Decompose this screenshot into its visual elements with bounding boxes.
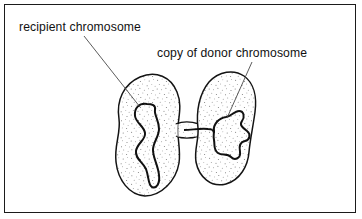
label-copy-of-donor-chromosome: copy of donor chromosome — [157, 46, 307, 60]
leader-line-recipient — [84, 36, 140, 107]
label-recipient-chromosome: recipient chromosome — [19, 20, 141, 34]
figure-canvas: recipient chromosome copy of donor chrom… — [0, 0, 362, 219]
